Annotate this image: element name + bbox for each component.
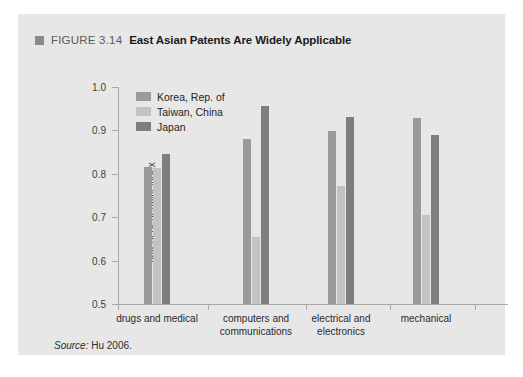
bar	[413, 118, 421, 304]
legend-swatch-icon	[136, 122, 151, 131]
figure-title: East Asian Patents Are Widely Applicable	[129, 34, 351, 46]
bar	[337, 186, 345, 304]
y-axis-tick-label: 0.7	[78, 213, 106, 223]
x-axis-category-label-line: mechanical	[366, 313, 486, 326]
source-prefix: Source:	[54, 340, 88, 351]
square-bullet-icon	[35, 36, 44, 45]
x-axis-category-label: mechanical	[366, 313, 486, 326]
bar	[252, 237, 260, 304]
source-note: Source: Hu 2006.	[54, 340, 132, 351]
x-axis-tick	[475, 305, 476, 310]
legend-swatch-icon	[136, 92, 151, 101]
bar	[162, 154, 170, 304]
y-axis-tick-label: 1.0	[78, 83, 106, 93]
legend-label: Japan	[157, 121, 186, 133]
bar	[431, 135, 439, 304]
bar	[346, 117, 354, 304]
legend-item: Korea, Rep. of	[136, 90, 225, 103]
bar	[422, 215, 430, 304]
bar	[144, 167, 152, 304]
x-axis-tick	[208, 305, 209, 310]
bar	[261, 106, 269, 304]
x-axis-tick	[306, 305, 307, 310]
bar	[328, 131, 336, 304]
legend-label: Taiwan, China	[157, 106, 223, 118]
y-axis-tick-label: 0.8	[78, 170, 106, 180]
y-axis-tick-label: 0.5	[78, 300, 106, 310]
legend-swatch-icon	[136, 107, 151, 116]
x-axis-category-label-line: electronics	[281, 326, 401, 339]
x-axis-tick	[118, 305, 119, 310]
source-text: Hu 2006.	[91, 340, 132, 351]
x-axis-line	[118, 304, 508, 305]
bar	[153, 168, 161, 304]
legend-item: Japan	[136, 120, 225, 133]
figure-header: FIGURE 3.14 East Asian Patents Are Widel…	[35, 34, 351, 46]
y-axis-tick-label: 0.9	[78, 126, 106, 136]
figure-panel: FIGURE 3.14 East Asian Patents Are Widel…	[18, 14, 505, 355]
figure-number: FIGURE 3.14	[51, 34, 122, 46]
legend-label: Korea, Rep. of	[157, 91, 225, 103]
x-axis-tick	[390, 305, 391, 310]
y-axis-tick-label: 0.6	[78, 257, 106, 267]
bar	[243, 139, 251, 304]
legend-item: Taiwan, China	[136, 105, 225, 118]
chart-legend: Korea, Rep. ofTaiwan, ChinaJapan	[136, 90, 225, 135]
